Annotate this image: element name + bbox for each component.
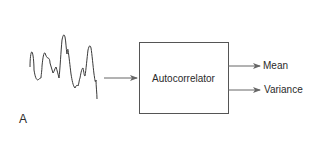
variance-output-label: Variance — [264, 85, 303, 95]
mean-output-label: Mean — [263, 61, 288, 71]
signal-waveform — [30, 35, 97, 99]
panel-label: A — [19, 112, 27, 126]
autocorrelator-label: Autocorrelator — [139, 42, 228, 114]
